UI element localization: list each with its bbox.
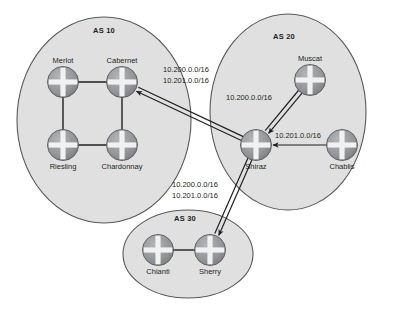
router-cross-horizontal (296, 77, 325, 82)
route-prefix-label: 10.200.0.0/16 (226, 93, 272, 102)
as-boundary-as-10 (17, 17, 191, 223)
router-label-cabernet: Cabernet (107, 56, 139, 65)
router-label-chianti: Chianti (146, 267, 170, 276)
router-label-riesling: Riesling (50, 162, 77, 171)
router-label-chablis: Chablis (329, 162, 354, 171)
router-merlot[interactable] (48, 67, 79, 98)
router-riesling[interactable] (48, 130, 79, 161)
router-cross-horizontal (196, 247, 225, 252)
as-boundary-as-30 (123, 210, 253, 298)
router-chardonnay[interactable] (107, 130, 138, 161)
router-chablis[interactable] (327, 130, 358, 161)
router-label-muscat: Muscat (298, 54, 323, 63)
as-label-as-30: AS 30 (174, 214, 196, 223)
as-label-as-20: AS 20 (273, 32, 295, 41)
router-cross-horizontal (49, 79, 78, 84)
route-prefix-label: 10.200.0.0/16 (163, 65, 209, 74)
router-cabernet[interactable] (107, 67, 138, 98)
as-boundary-as-20 (210, 14, 366, 210)
router-chianti[interactable] (143, 235, 174, 266)
router-muscat[interactable] (295, 65, 326, 96)
router-cross-horizontal (328, 142, 357, 147)
router-cross-horizontal (144, 247, 173, 252)
diagram-canvas: AS 10AS 20AS 3010.200.0.0/1610.201.0.0/1… (0, 0, 395, 315)
router-shiraz[interactable] (241, 130, 272, 161)
router-label-merlot: Merlot (53, 56, 75, 65)
route-prefix-label: 10.201.0.0/16 (172, 191, 218, 200)
router-sherry[interactable] (195, 235, 226, 266)
router-cross-horizontal (108, 142, 137, 147)
router-label-sherry: Sherry (199, 267, 221, 276)
route-prefix-label: 10.201.0.0/16 (275, 131, 321, 140)
router-cross-horizontal (242, 142, 271, 147)
router-label-chardonnay: Chardonnay (102, 162, 143, 171)
network-diagram: AS 10AS 20AS 3010.200.0.0/1610.201.0.0/1… (0, 0, 395, 315)
router-cross-horizontal (108, 79, 137, 84)
router-cross-horizontal (49, 142, 78, 147)
route-prefix-label: 10.200.0.0/16 (172, 180, 218, 189)
as-label-as-10: AS 10 (93, 26, 115, 35)
route-prefix-label: 10.201.0.0/16 (163, 76, 209, 85)
router-label-shiraz: Shiraz (245, 162, 267, 171)
